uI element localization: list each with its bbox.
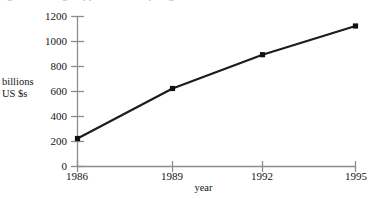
x-tick-label: 1992: [232, 170, 292, 182]
data-point-marker: [260, 52, 265, 57]
x-tick-label: 1995: [326, 170, 371, 182]
x-tick-label: 1989: [142, 170, 202, 182]
data-point-markers: [75, 23, 358, 141]
line-chart-plot: 1200 1000 800 600 400 200 0 billions US …: [0, 0, 371, 199]
x-tick-label: 1986: [47, 170, 107, 182]
chart-figure: figure heading clipped above top edge 12…: [0, 0, 371, 199]
x-axis-label: year: [194, 182, 212, 193]
data-point-marker: [170, 86, 175, 91]
x-axis-label-wrap: year: [0, 182, 371, 193]
data-point-marker: [75, 136, 80, 141]
data-point-marker: [353, 23, 358, 28]
data-line-series: [78, 26, 356, 139]
